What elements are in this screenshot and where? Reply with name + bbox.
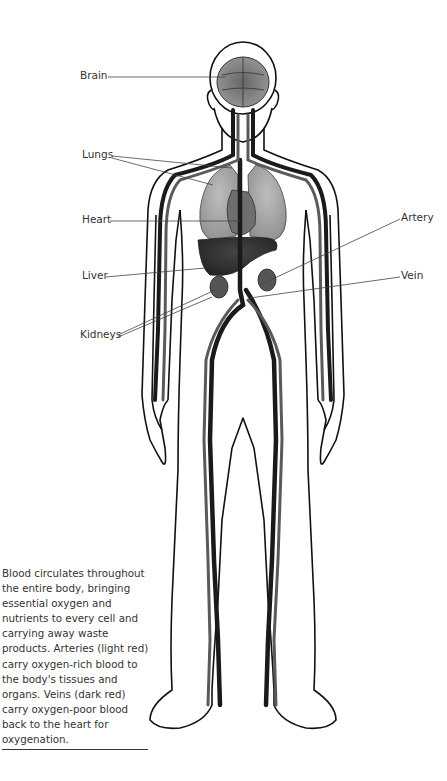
label-vein: Vein: [401, 269, 423, 281]
caption-divider: [2, 749, 148, 750]
left-kidney: [210, 276, 228, 298]
lungs-leader-2: [112, 158, 213, 185]
label-lungs: Lungs: [82, 148, 113, 160]
label-kidneys: Kidneys: [80, 328, 121, 340]
label-brain: Brain: [80, 69, 108, 81]
caption-text: Blood circulates throughout the entire b…: [2, 566, 152, 747]
body-outline: [142, 42, 344, 728]
right-kidney: [258, 269, 276, 291]
label-liver: Liver: [82, 269, 108, 281]
label-heart: Heart: [82, 213, 111, 225]
label-artery: Artery: [401, 211, 434, 223]
circulatory-system-diagram: Brain Lungs Heart Liver Kidneys Artery V…: [0, 0, 447, 781]
